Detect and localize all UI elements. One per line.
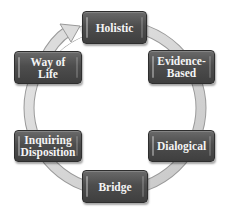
node-label: Dialogical xyxy=(151,140,212,152)
node-label: Inquiring Disposition xyxy=(15,134,82,158)
node-label: Bridge xyxy=(92,181,137,193)
cycle-diagram: Holistic Evidence- Based Dialogical Brid… xyxy=(0,0,227,215)
node-way-of-life: Way of Life xyxy=(14,51,82,84)
node-inquiring-disposition: Inquiring Disposition xyxy=(14,130,82,162)
node-label: Evidence- Based xyxy=(151,55,212,79)
node-label: Holistic xyxy=(90,22,140,34)
node-holistic: Holistic xyxy=(82,11,147,44)
node-bridge: Bridge xyxy=(82,170,148,203)
node-dialogical: Dialogical xyxy=(148,130,215,162)
node-evidence-based: Evidence- Based xyxy=(148,50,215,84)
node-label: Way of Life xyxy=(15,56,81,80)
